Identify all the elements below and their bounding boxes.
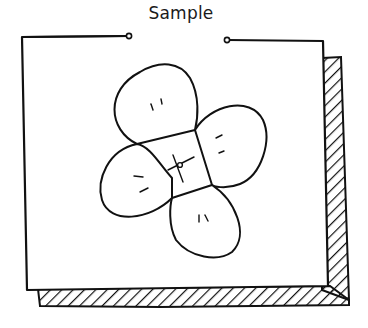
frame-knob-right-icon [224, 37, 229, 42]
sample-card: Sample [0, 0, 368, 328]
hand-drawn-frame [0, 0, 368, 328]
frame-knob-left-icon [126, 33, 131, 38]
card-title: Sample [146, 3, 216, 23]
